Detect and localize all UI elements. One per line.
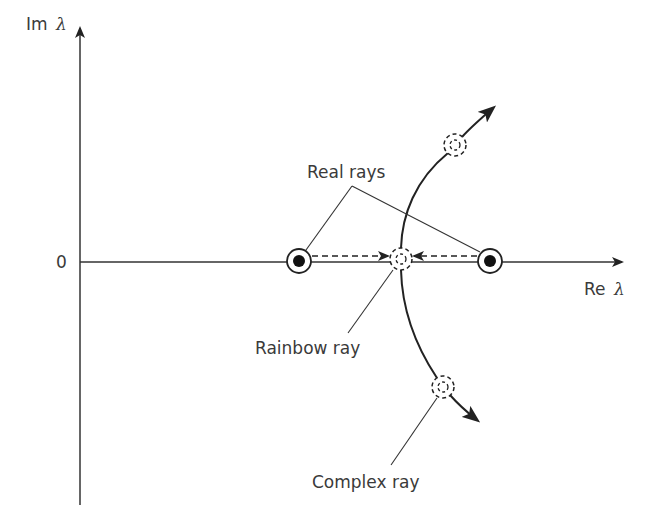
complex-trajectory-upper xyxy=(401,153,448,248)
leader-lines xyxy=(306,186,480,465)
complex-ray-node-lower xyxy=(432,376,454,398)
label-real-rays: Real rays xyxy=(307,162,386,182)
axes xyxy=(80,28,622,505)
rainbow-ray-node xyxy=(390,248,412,270)
complex-trajectory-lower xyxy=(401,270,437,378)
real-ray-node-left xyxy=(287,249,311,273)
complex-trajectory-upper-arrow xyxy=(462,108,493,137)
re-axis-label: Re λ xyxy=(584,279,625,299)
label-rainbow-ray: Rainbow ray xyxy=(255,338,360,358)
real-ray-node-right xyxy=(478,249,502,273)
leader-real-left xyxy=(306,186,352,250)
leader-rainbow xyxy=(348,270,393,333)
leader-complex xyxy=(391,398,437,465)
ray-diagram: Im λ Re λ 0 Real ra xyxy=(0,0,655,527)
leader-real-right xyxy=(352,186,480,252)
im-axis-label: Im λ xyxy=(26,14,67,34)
label-complex-ray: Complex ray xyxy=(312,472,419,492)
complex-trajectory-lower-arrow xyxy=(450,395,477,420)
complex-ray-node-upper xyxy=(444,134,466,156)
origin-label: 0 xyxy=(56,252,67,272)
